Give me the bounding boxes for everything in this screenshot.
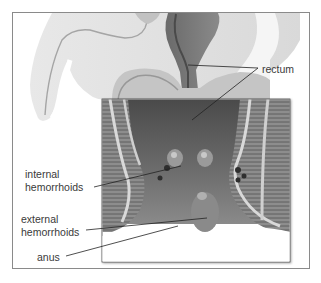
inset-content: [102, 99, 290, 262]
label-anus: anus: [37, 251, 60, 263]
anatomy-illustration: [0, 0, 321, 283]
label-rectum: rectum: [262, 63, 294, 75]
label-external-hemorrhoids-line2: hemorrhoids: [21, 226, 79, 238]
label-internal-hemorrhoids-line1: internal: [25, 168, 59, 180]
label-external-hemorrhoids-line1: external: [21, 213, 58, 225]
label-internal-hemorrhoids-line2: hemorrhoids: [25, 181, 83, 193]
